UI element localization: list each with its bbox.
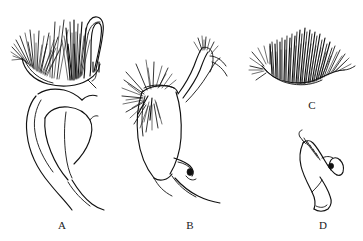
- panel-c-setal-palisade: [270, 28, 351, 84]
- panel-b-body-outline: [137, 85, 181, 180]
- panel-b-dorsal-arm: [178, 47, 220, 102]
- panel-a-central-setae: [50, 20, 68, 79]
- figure-illustration: A: [0, 0, 363, 241]
- panel-label-b: B: [186, 219, 194, 231]
- panel-a-tail-inner: [68, 182, 90, 206]
- panel-b-basal-node: [174, 158, 196, 180]
- panel-label-a: A: [58, 219, 66, 231]
- panel-a-drawing: A: [11, 17, 104, 231]
- panel-b-drawing: B: [122, 36, 227, 231]
- panel-c-apical-setae: [249, 46, 270, 80]
- panel-label-c: C: [308, 99, 316, 111]
- panel-label-d: D: [319, 219, 327, 231]
- panel-d-node: [328, 163, 333, 169]
- panel-a-tail: [72, 180, 104, 210]
- panel-b-left-setal-spray: [122, 60, 176, 132]
- panel-d-drawing: D: [299, 130, 343, 231]
- panel-d-hook-outline: [300, 141, 343, 209]
- panel-a-inner-fold: [45, 107, 98, 180]
- panel-a-clasper-loop: [84, 17, 103, 81]
- figure-container: A: [0, 0, 363, 241]
- panel-c-drawing: C: [249, 28, 355, 111]
